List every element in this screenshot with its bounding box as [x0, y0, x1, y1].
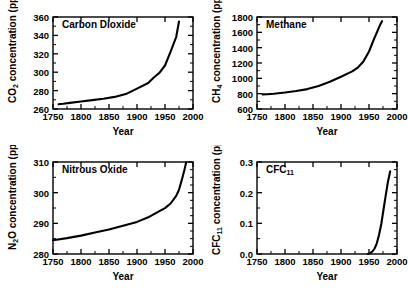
x-axis-label-cfc11: Year	[316, 271, 337, 282]
y-ticks-ch4	[257, 17, 397, 109]
x-tick-label: 1850	[302, 111, 323, 122]
y-tick-label: 360	[33, 12, 49, 23]
y-tick-label: 0.3	[240, 157, 253, 168]
panel-title-co2: Carbon Dioxide	[62, 19, 136, 30]
y-axis-label-group-ch4: CH4 concentration (ppbv)	[211, 0, 223, 103]
y-axis-label-n2o: N2O concentration (ppbv)	[7, 145, 19, 250]
y-tick-labels-co2: 360 340 320 300 280 260	[33, 12, 49, 115]
chart-panel-methane: CH4 concentration (ppbv) 1800 1600 1400 …	[204, 0, 408, 145]
y-tick-labels-ch4: 1800 1600 1400 1200 1000 800 600	[232, 12, 253, 115]
x-tick-labels-cfc11: 1750 1800 1850 1900 1950 2000	[246, 256, 407, 267]
data-curve-ch4	[263, 21, 382, 94]
y-tick-label: 300	[33, 188, 49, 199]
plot-frame-cfc11	[257, 162, 397, 254]
x-tick-label: 1850	[302, 256, 323, 267]
chart-panel-nitrous-oxide: N2O concentration (ppbv) 310 300 290 280	[0, 145, 204, 290]
y-axis-label-group-co2: CO2 concentration (ppmv)	[7, 0, 19, 103]
x-tick-labels-ch4: 1750 1800 1850 1900 1950 2000	[246, 111, 407, 122]
y-tick-labels-n2o: 310 300 290 280	[33, 157, 49, 260]
y-ticks-cfc11	[257, 162, 397, 254]
y-tick-label: 1400	[232, 43, 253, 54]
x-tick-label: 1750	[42, 111, 63, 122]
y-axis-label-co2: CO2 concentration (ppmv)	[7, 0, 19, 103]
x-tick-label: 1900	[126, 111, 147, 122]
data-curve-cfc11	[368, 171, 390, 254]
y-tick-label: 320	[33, 49, 49, 60]
y-tick-label: 1200	[232, 58, 253, 69]
y-tick-label: 310	[33, 157, 49, 168]
chart-panel-carbon-dioxide: CO2 concentration (ppmv) 360 340 320 300…	[0, 0, 204, 145]
x-tick-labels-n2o: 1750 1800 1850 1900 1950 2000	[42, 256, 203, 267]
x-ticks-cfc11	[257, 162, 397, 254]
y-tick-label: 290	[33, 218, 49, 229]
chart-svg-nitrous-oxide: N2O concentration (ppbv) 310 300 290 280	[0, 145, 204, 290]
y-axis-label-group-cfc11: CFC11 concentration (ppbv)	[211, 145, 223, 255]
y-axis-label-ch4: CH4 concentration (ppbv)	[211, 0, 223, 103]
panel-title-ch4: Methane	[266, 19, 307, 30]
y-tick-label: 0.2	[240, 188, 253, 199]
y-tick-label: 800	[237, 89, 253, 100]
y-tick-label: 300	[33, 67, 49, 78]
x-axis-label-n2o: Year	[112, 271, 133, 282]
panel-title-cfc11: CFC11	[266, 164, 294, 176]
x-tick-label: 1800	[70, 111, 91, 122]
plot-frame-n2o	[53, 162, 193, 254]
y-axis-label-cfc11: CFC11 concentration (ppbv)	[211, 145, 223, 255]
y-tick-label: 1800	[232, 12, 253, 23]
x-tick-label: 1800	[274, 256, 295, 267]
x-tick-label: 1900	[330, 256, 351, 267]
y-tick-label: 1600	[232, 27, 253, 38]
x-tick-label: 1800	[274, 111, 295, 122]
chart-panel-cfc11: CFC11 concentration (ppbv) 0.3 0.2 0.1 0…	[204, 145, 408, 290]
y-tick-labels-cfc11: 0.3 0.2 0.1 0.0	[240, 157, 254, 260]
y-tick-label: 280	[33, 86, 49, 97]
x-tick-label: 2000	[386, 256, 407, 267]
y-tick-label: 1000	[232, 73, 253, 84]
chart-svg-carbon-dioxide: CO2 concentration (ppmv) 360 340 320 300…	[0, 0, 204, 145]
x-tick-label: 1900	[330, 111, 351, 122]
x-tick-label: 1950	[154, 256, 175, 267]
x-ticks-n2o	[53, 162, 193, 254]
x-tick-label: 1750	[246, 111, 267, 122]
x-axis-label-co2: Year	[112, 126, 133, 137]
data-curve-co2	[59, 22, 179, 105]
x-tick-label: 2000	[182, 256, 203, 267]
x-tick-label: 2000	[182, 111, 203, 122]
greenhouse-gas-figure: CO2 concentration (ppmv) 360 340 320 300…	[0, 0, 408, 291]
panel-title-n2o: Nitrous Oxide	[62, 164, 128, 175]
x-ticks-ch4	[257, 17, 397, 109]
plot-frame-ch4	[257, 17, 397, 109]
x-tick-label: 1800	[70, 256, 91, 267]
y-tick-label: 340	[33, 30, 49, 41]
x-tick-label: 1950	[358, 256, 379, 267]
chart-svg-cfc11: CFC11 concentration (ppbv) 0.3 0.2 0.1 0…	[204, 145, 408, 290]
x-tick-label: 1950	[154, 111, 175, 122]
x-tick-labels-co2: 1750 1800 1850 1900 1950 2000	[42, 111, 203, 122]
chart-svg-methane: CH4 concentration (ppbv) 1800 1600 1400 …	[204, 0, 408, 145]
x-tick-label: 2000	[386, 111, 407, 122]
x-tick-label: 1950	[358, 111, 379, 122]
x-tick-label: 1750	[42, 256, 63, 267]
x-tick-label: 1850	[98, 111, 119, 122]
y-axis-label-group-n2o: N2O concentration (ppbv)	[7, 145, 19, 250]
y-ticks-n2o	[53, 162, 193, 254]
y-tick-label: 0.1	[240, 218, 254, 229]
x-tick-label: 1850	[98, 256, 119, 267]
x-axis-label-ch4: Year	[316, 126, 337, 137]
x-tick-label: 1750	[246, 256, 267, 267]
x-tick-label: 1900	[126, 256, 147, 267]
